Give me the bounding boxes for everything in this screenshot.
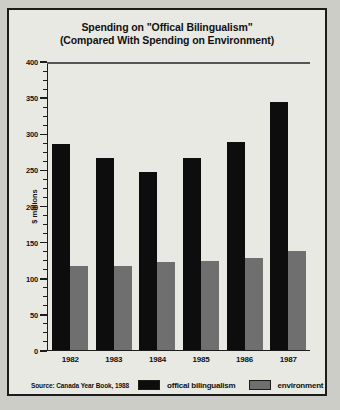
y-tick-minor [43, 71, 47, 72]
y-tick-minor [43, 296, 47, 297]
chart-panel: Spending on "Offical Bilingualism" (Comp… [7, 8, 327, 396]
y-tick-minor [43, 341, 47, 342]
y-tick-minor [43, 161, 47, 162]
bar-1984-series-a [139, 172, 157, 350]
y-tick-minor [43, 269, 47, 270]
bar-group-1983 [92, 62, 136, 350]
y-tick-label: 50 [30, 310, 38, 319]
y-tick-major [40, 350, 47, 352]
y-tick-minor [43, 287, 47, 288]
y-tick-major [40, 314, 47, 316]
y-tick-minor [43, 143, 47, 144]
bar-group-1986 [223, 62, 267, 350]
x-tick-label: 1987 [266, 355, 310, 364]
y-tick-minor [43, 260, 47, 261]
x-axis-labels: 198219831984198519861987 [49, 355, 311, 364]
x-tick-label: 1983 [92, 355, 136, 364]
y-tick-minor [43, 305, 47, 306]
y-tick-major [40, 97, 47, 99]
y-tick-minor [43, 233, 47, 234]
y-tick-label: 200 [26, 202, 38, 211]
x-tick-label: 1982 [49, 355, 93, 364]
bar-1987-series-a [270, 102, 288, 350]
y-tick-label: 300 [26, 130, 38, 139]
bar-1982-series-a [52, 144, 70, 349]
y-tick-minor [43, 197, 47, 198]
y-tick-minor [43, 116, 47, 117]
legend-entry-series-a: offical bilingualism [138, 380, 235, 390]
y-tick-minor [43, 188, 47, 189]
y-tick-minor [43, 323, 47, 324]
y-tick-minor [43, 80, 47, 81]
chart-title-line-1: Spending on "Offical Bilingualism" [9, 21, 325, 34]
bar-group-1985 [179, 62, 223, 350]
y-tick-minor [43, 251, 47, 252]
legend-label: offical bilingualism [167, 381, 235, 390]
y-tick-minor [43, 332, 47, 333]
bar-1987-series-b [288, 251, 306, 350]
y-tick-label: 250 [26, 166, 38, 175]
bar-1984-series-b [157, 262, 175, 349]
plot-area: 050100150200250300350400 [47, 62, 310, 351]
y-tick-minor [43, 152, 47, 153]
y-tick-minor [43, 179, 47, 180]
y-tick-major [40, 242, 47, 244]
y-tick-major [40, 61, 47, 63]
x-tick-label: 1986 [223, 355, 267, 364]
x-tick-label: 1984 [136, 355, 180, 364]
y-tick-major [40, 278, 47, 280]
y-tick-minor [43, 107, 47, 108]
bar-group-1982 [49, 62, 93, 350]
y-tick-minor [43, 215, 47, 216]
y-tick-minor [43, 224, 47, 225]
y-tick-label: 350 [26, 94, 38, 103]
y-tick-minor [43, 125, 47, 126]
bar-1983-series-b [114, 266, 132, 350]
y-tick-label: 150 [26, 238, 38, 247]
legend-swatch-icon [138, 380, 160, 390]
bar-1983-series-a [96, 158, 114, 349]
y-tick-major [40, 134, 47, 136]
y-tick-major [40, 170, 47, 172]
legend-label: environment [278, 381, 324, 390]
bar-1986-series-b [245, 258, 263, 350]
legend-swatch-icon [249, 380, 271, 390]
bar-group-1984 [136, 62, 180, 350]
legend-entry-series-b: environment [249, 380, 324, 390]
chart-title: Spending on "Offical Bilingualism" (Comp… [9, 21, 325, 47]
bar-groups [49, 62, 311, 350]
chart-legend: offical bilingualismenvironment [138, 380, 336, 390]
bar-1986-series-a [227, 142, 245, 349]
source-note: Source: Canada Year Book, 1988 [31, 382, 129, 389]
y-tick-label: 100 [26, 274, 38, 283]
bar-group-1987 [266, 62, 310, 350]
y-tick-minor [43, 89, 47, 90]
chart-footer: Source: Canada Year Book, 1988 offical b… [31, 380, 315, 390]
chart-title-line-2: (Compared With Spending on Environment) [9, 34, 325, 47]
y-tick-label: 400 [26, 58, 38, 67]
y-tick-label: 0 [34, 347, 38, 356]
bar-1985-series-a [183, 158, 201, 349]
x-tick-label: 1985 [179, 355, 223, 364]
bar-1982-series-b [70, 266, 88, 350]
bar-1985-series-b [201, 261, 219, 349]
y-tick-major [40, 206, 47, 208]
